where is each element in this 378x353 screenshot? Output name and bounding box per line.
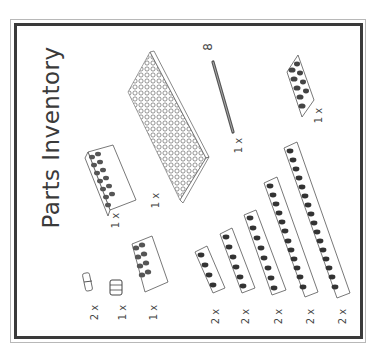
plate-1x6-icon [287, 55, 314, 117]
bushing-icon [110, 280, 122, 295]
qty-beam-1x12: 2 x [305, 307, 316, 327]
qty-beam-1x6: 2 x [240, 307, 251, 327]
axle-length-label: 8 [201, 40, 215, 54]
brick-2x4-icon [132, 236, 168, 292]
qty-pin: 2 x [89, 303, 100, 323]
pin-icon [82, 272, 93, 291]
brick-2x8-icon [85, 145, 136, 216]
qty-beam-1x8: 2 x [273, 307, 284, 327]
qty-brick-2x4: 1 x [148, 303, 159, 323]
axle-icon [213, 62, 233, 132]
beam-1x6-icon [220, 228, 255, 293]
qty-bushing: 1 x [117, 303, 128, 323]
qty-brick-2x8: 1 x [110, 211, 121, 231]
qty-axle: 1 x [233, 136, 244, 156]
qty-plate-1x6: 1 x [313, 106, 324, 126]
plate-8x16-icon [128, 51, 209, 203]
qty-plate-8x16: 1 x [150, 191, 161, 211]
beam-1x16-icon [284, 142, 350, 298]
qty-beam-1x16: 2 x [337, 307, 348, 327]
parts-illustration [0, 0, 378, 353]
beam-1x4-icon [195, 246, 225, 293]
qty-beam-1x4: 2 x [210, 307, 221, 327]
